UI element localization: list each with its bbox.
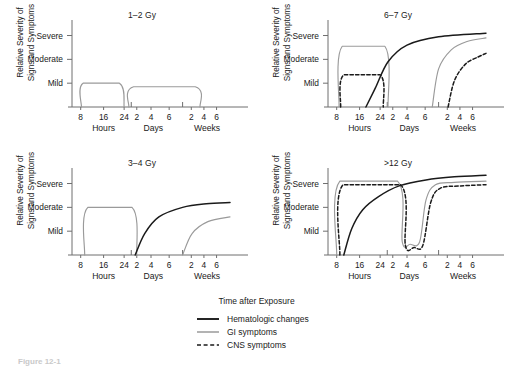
legend-label: CNS symptoms [227,340,286,350]
legend-line-hematologic-icon [196,314,220,324]
svg-text:Weeks: Weeks [194,123,220,133]
svg-text:6: 6 [423,260,428,270]
svg-text:Moderate: Moderate [28,54,64,64]
svg-text:Moderate: Moderate [284,54,320,64]
svg-text:6: 6 [214,260,219,270]
svg-text:16: 16 [99,112,109,122]
svg-text:Days: Days [400,271,420,281]
panel-dose-3-4-gy: 3–4 Gy Relative Severity of Signs and Sy… [0,152,256,302]
legend-item-hematologic: Hematologic changes [196,312,309,325]
svg-text:8: 8 [78,260,83,270]
svg-text:Severe: Severe [292,179,319,189]
x-axis-caption: Time after Exposure [0,296,513,306]
svg-text:Mild: Mild [48,78,64,88]
svg-text:Weeks: Weeks [450,271,476,281]
plot-area-3-4-gy: MildModerateSevere81624246246HoursDaysWe… [0,152,256,302]
svg-text:16: 16 [355,260,365,270]
svg-text:24: 24 [119,112,129,122]
svg-text:2: 2 [134,260,139,270]
svg-text:24: 24 [375,260,385,270]
svg-text:6: 6 [214,112,219,122]
svg-text:2: 2 [445,112,450,122]
plot-area-6-7-gy: MildModerateSevere81624246246HoursDaysWe… [256,4,512,154]
series-hematologic-changes [344,175,486,255]
svg-text:Days: Days [144,123,164,133]
legend-line-gi-icon [196,327,220,337]
svg-text:Severe: Severe [36,179,63,189]
svg-text:6: 6 [167,260,172,270]
plot-area-over-12-gy: MildModerateSevere81624246246HoursDaysWe… [256,152,512,302]
svg-text:Mild: Mild [304,78,320,88]
svg-text:Days: Days [400,123,420,133]
svg-text:4: 4 [405,112,410,122]
series-gi-symptoms [83,207,137,255]
series-hematologic-changes [135,203,230,255]
series-gi-symptoms [183,217,230,255]
svg-text:6: 6 [423,112,428,122]
svg-text:8: 8 [78,112,83,122]
svg-text:Hours: Hours [92,271,115,281]
svg-text:6: 6 [167,112,172,122]
svg-text:4: 4 [202,112,207,122]
svg-text:2: 2 [390,112,395,122]
legend-label: GI symptoms [227,327,277,337]
svg-text:8: 8 [334,112,339,122]
legend-line-cns-icon [196,340,220,350]
svg-text:6: 6 [470,260,475,270]
svg-text:Hours: Hours [92,123,115,133]
svg-text:Hours: Hours [348,271,371,281]
svg-text:8: 8 [334,260,339,270]
svg-text:Hours: Hours [348,123,371,133]
svg-text:4: 4 [202,260,207,270]
svg-text:Moderate: Moderate [284,202,320,212]
svg-text:Weeks: Weeks [194,271,220,281]
svg-text:2: 2 [134,112,139,122]
panel-dose-over-12-gy: >12 Gy Relative Severity of Signs and Sy… [256,152,512,302]
svg-text:4: 4 [149,260,154,270]
svg-text:Weeks: Weeks [450,123,476,133]
svg-text:Mild: Mild [48,226,64,236]
svg-text:2: 2 [445,260,450,270]
svg-text:4: 4 [405,260,410,270]
svg-text:4: 4 [458,112,463,122]
svg-text:Days: Days [144,271,164,281]
legend: Hematologic changes GI symptoms CNS symp… [196,312,309,351]
legend-item-gi: GI symptoms [196,325,309,338]
svg-text:16: 16 [99,260,109,270]
svg-text:2: 2 [189,260,194,270]
svg-text:4: 4 [458,260,463,270]
svg-text:2: 2 [390,260,395,270]
svg-text:24: 24 [119,260,129,270]
series-gi-symptoms [80,83,124,107]
legend-label: Hematologic changes [227,314,309,324]
series-cns-symptoms [448,53,486,107]
panel-dose-1-2-gy: 1–2 Gy Relative Severity of Signs and Sy… [0,4,256,154]
svg-text:Severe: Severe [292,31,319,41]
svg-text:24: 24 [375,112,385,122]
series-cns-symptoms [340,75,384,107]
figure-caption: Figure 12-1 [18,357,61,366]
svg-text:Severe: Severe [36,31,63,41]
svg-text:6: 6 [470,112,475,122]
svg-text:Mild: Mild [304,226,320,236]
plot-area-1-2-gy: MildModerateSevere81624246246HoursDaysWe… [0,4,256,154]
legend-item-cns: CNS symptoms [196,338,309,351]
radiation-severity-figure: 1–2 Gy Relative Severity of Signs and Sy… [0,0,513,368]
svg-text:2: 2 [189,112,194,122]
series-gi-symptoms [127,87,201,107]
svg-text:4: 4 [149,112,154,122]
svg-text:16: 16 [355,112,365,122]
panel-dose-6-7-gy: 6–7 Gy Relative Severity of Signs and Sy… [256,4,512,154]
series-gi-symptoms [338,46,389,107]
svg-text:Moderate: Moderate [28,202,64,212]
